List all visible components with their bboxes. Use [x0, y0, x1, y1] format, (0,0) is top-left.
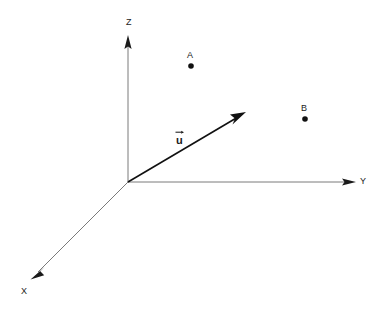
x-axis-group: [31, 182, 129, 280]
point-a-dot: [188, 63, 194, 69]
vector-u-letter: u: [176, 134, 183, 146]
point-b-dot: [302, 116, 308, 122]
z-axis-group: [124, 35, 131, 182]
y-axis-label: Y: [360, 177, 366, 186]
y-axis-group: [128, 178, 356, 185]
vector-u-label: u: [176, 135, 183, 146]
vector-arrow-accent-icon: [175, 129, 184, 134]
vector-u-arrowhead: [230, 112, 246, 125]
point-b-label: B: [301, 104, 307, 113]
x-axis-line: [38, 182, 128, 272]
vector-u-glyph: u: [176, 135, 183, 146]
point-a-label: A: [187, 51, 193, 60]
vector-diagram-canvas: Z Y X A B u: [0, 0, 384, 311]
diagram-svg: [0, 0, 384, 311]
vector-u-group: [128, 112, 246, 182]
x-axis-arrowhead: [31, 267, 45, 280]
z-axis-label: Z: [126, 18, 132, 27]
x-axis-label: X: [21, 287, 27, 296]
vector-u-line: [128, 117, 238, 182]
